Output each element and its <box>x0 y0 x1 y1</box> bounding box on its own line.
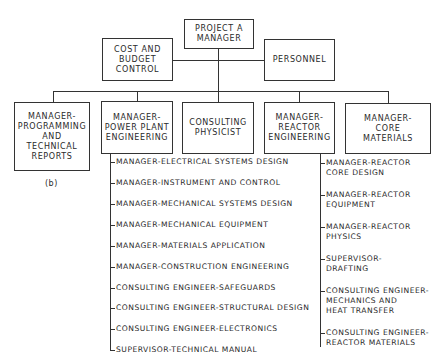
cost-budget-box: COST AND BUDGET CONTROL <box>102 38 173 81</box>
branch-tick <box>110 162 115 163</box>
figure-caption: (b) <box>45 179 58 188</box>
main-trunk <box>218 49 219 102</box>
power-plant-item: MANAGER-CONSTRUCTION ENGINEERING <box>116 262 289 272</box>
power-plant-item: MANAGER-ELECTRICAL SYSTEMS DESIGN <box>116 157 289 167</box>
power-plant-item: SUPERVISOR-TECHNICAL MANUAL <box>116 345 257 355</box>
branch-tick <box>110 267 115 268</box>
power-plant-item: MANAGER-MECHANICAL EQUIPMENT <box>116 220 268 230</box>
drop-reactor <box>299 91 300 102</box>
department-label: MANAGER- CORE MATERIALS <box>363 114 413 144</box>
department-reactor-box: MANAGER- REACTOR ENGINEERING <box>264 102 335 154</box>
branch-tick <box>110 183 115 184</box>
power-plant-item: CONSULTING ENGINEER-STRUCTURAL DESIGN <box>116 303 309 313</box>
department-power-plant-box: MANAGER- POWER PLANT ENGINEERING <box>101 101 173 154</box>
department-label: MANAGER- REACTOR ENGINEERING <box>268 113 330 143</box>
reactor-item: CONSULTING ENGINEER- REACTOR MATERIALS <box>326 328 429 348</box>
department-consulting-physicist-box: CONSULTING PHYSICIST <box>182 102 254 154</box>
branch-tick <box>110 225 115 226</box>
branch-tick <box>320 227 325 228</box>
personnel-label: PERSONNEL <box>273 55 327 65</box>
reactor-item: SUPERVISOR- DRAFTING <box>326 254 382 274</box>
branch-tick <box>320 163 325 164</box>
reactor-item: CONSULTING ENGINEER- MECHANICS AND HEAT … <box>326 286 429 316</box>
branch-tick <box>110 350 115 351</box>
department-label: MANAGER- POWER PLANT ENGINEERING <box>105 113 170 143</box>
branch-tick <box>110 308 115 309</box>
branch-tick <box>110 288 115 289</box>
department-programming-box: MANAGER- PROGRAMMING AND TECHNICAL REPOR… <box>14 102 90 171</box>
power-plant-item: MANAGER-MATERIALS APPLICATION <box>116 241 265 251</box>
power-plant-item: CONSULTING ENGINEER-ELECTRONICS <box>116 324 278 334</box>
power-plant-item: MANAGER-INSTRUMENT AND CONTROL <box>116 178 280 188</box>
branch-tick <box>110 204 115 205</box>
department-label: MANAGER- PROGRAMMING AND TECHNICAL REPOR… <box>18 112 87 162</box>
project-manager-label: PROJECT A MANAGER <box>195 24 243 44</box>
reactor-item: MANAGER-REACTOR EQUIPMENT <box>326 190 411 210</box>
department-bus <box>53 91 389 92</box>
project-manager-box: PROJECT A MANAGER <box>184 19 254 49</box>
branch-tick <box>320 259 325 260</box>
reactor-item: MANAGER-REACTOR PHYSICS <box>326 222 411 242</box>
power-plant-item: CONSULTING ENGINEER-SAFEGUARDS <box>116 283 276 293</box>
drop-power-plant <box>137 91 138 101</box>
branch-tick <box>110 329 115 330</box>
cost-budget-label: COST AND BUDGET CONTROL <box>114 45 161 75</box>
power-plant-item: MANAGER-MECHANICAL SYSTEMS DESIGN <box>116 199 293 209</box>
personnel-box: PERSONNEL <box>264 39 335 81</box>
branch-tick <box>110 246 115 247</box>
drop-programming <box>53 91 54 102</box>
branch-tick <box>320 195 325 196</box>
drop-core <box>388 91 389 103</box>
branch-tick <box>320 291 325 292</box>
branch-tick <box>320 333 325 334</box>
department-core-materials-box: MANAGER- CORE MATERIALS <box>345 103 431 154</box>
reactor-spine <box>320 154 321 347</box>
reactor-item: MANAGER-REACTOR CORE DESIGN <box>326 158 411 178</box>
department-label: CONSULTING PHYSICIST <box>189 118 247 138</box>
